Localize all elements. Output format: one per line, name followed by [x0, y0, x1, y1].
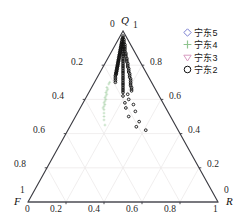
- right-tick-1: 0.6: [169, 92, 181, 102]
- diamond-open-icon: [181, 26, 194, 38]
- left-tick-1: 0.4: [52, 92, 64, 102]
- legend-label-3: 宁东2: [194, 63, 218, 76]
- data-point: [134, 110, 137, 113]
- data-point: [135, 125, 138, 128]
- bottom-tick-3: 0.8: [164, 205, 176, 215]
- ternary-chart: Q 0 1 1 F 0 0 R 1 0.2 0.4 0.6 0.8 0.2 0.…: [0, 0, 247, 224]
- right-tick-0: 0.8: [150, 58, 162, 68]
- data-point: [103, 119, 106, 122]
- left-tick-0: 0.2: [71, 58, 83, 68]
- data-point: [138, 120, 141, 123]
- legend: 宁东5 宁东4 宁东3 宁东2: [181, 26, 245, 76]
- right-tick-2: 0.4: [188, 126, 200, 136]
- circle-open-icon: [181, 64, 194, 76]
- legend-item-2[interactable]: 宁东3: [181, 51, 245, 63]
- bottom-tick-0: 0.2: [50, 205, 62, 215]
- corner-label-r: R: [226, 196, 233, 207]
- data-point: [103, 115, 106, 118]
- legend-label-1: 宁东4: [194, 38, 218, 51]
- apex-q-right-value: 1: [133, 21, 138, 31]
- bottom-tick-1: 0.4: [88, 205, 100, 215]
- bottom-tick-2: 0.6: [126, 205, 138, 215]
- data-point: [132, 103, 135, 106]
- corner-r-bottom-value: 1: [213, 205, 218, 215]
- legend-label-0: 宁东5: [194, 26, 218, 39]
- legend-item-1[interactable]: 宁东4: [181, 39, 245, 51]
- data-point: [103, 112, 106, 115]
- data-point: [144, 129, 147, 132]
- right-tick-3: 0.2: [207, 160, 219, 170]
- apex-label-q: Q: [121, 15, 129, 26]
- data-points-layer: [102, 35, 147, 132]
- left-tick-3: 0.8: [14, 160, 26, 170]
- data-point: [127, 115, 130, 118]
- triangle-down-open-icon: [181, 51, 194, 63]
- data-point: [104, 124, 107, 127]
- plus-icon: [181, 39, 194, 51]
- legend-label-2: 宁东3: [194, 51, 218, 64]
- corner-label-f: F: [14, 196, 21, 207]
- data-point: [122, 95, 125, 98]
- left-tick-2: 0.6: [33, 126, 45, 136]
- corner-f-bottom-value: 0: [25, 205, 30, 215]
- data-point: [126, 93, 129, 96]
- legend-item-0[interactable]: 宁东5: [181, 26, 245, 38]
- data-point: [125, 107, 128, 110]
- legend-item-3[interactable]: 宁东2: [181, 64, 245, 76]
- apex-q-left-value: 0: [110, 20, 115, 30]
